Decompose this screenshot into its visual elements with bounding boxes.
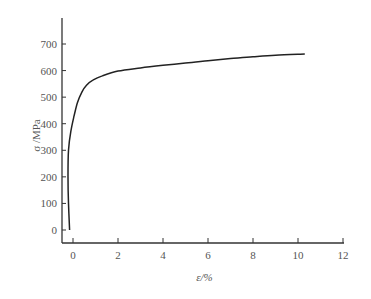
y-tick-label: 700: [41, 38, 58, 50]
x-tick-label: 0: [70, 249, 76, 261]
x-tick-label: 2: [115, 249, 121, 261]
chart-container: 0100200300400500600700024681012ε/%σ /MPa…: [0, 0, 371, 299]
stress-strain-chart: 0100200300400500600700024681012ε/%σ /MPa: [0, 0, 371, 299]
x-tick-label: 10: [293, 249, 305, 261]
y-tick-label: 200: [41, 171, 58, 183]
x-tick-label: 6: [205, 249, 211, 261]
y-tick-label: 100: [41, 197, 58, 209]
x-axis-label: ε/%: [196, 271, 213, 283]
stress-strain-curve: [68, 54, 305, 230]
x-tick-label: 12: [338, 249, 349, 261]
y-tick-label: 0: [52, 224, 58, 236]
y-tick-label: 300: [41, 144, 58, 156]
y-axis-label: σ /MPa: [30, 119, 42, 152]
y-tick-label: 400: [41, 118, 58, 130]
y-tick-label: 500: [41, 91, 58, 103]
y-tick-label: 600: [41, 65, 58, 77]
x-tick-label: 4: [160, 249, 166, 261]
x-tick-label: 8: [250, 249, 256, 261]
